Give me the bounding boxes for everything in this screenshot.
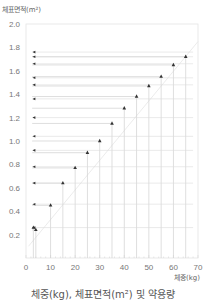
svg-text:60: 60: [169, 263, 178, 272]
svg-text:10: 10: [46, 263, 55, 272]
svg-text:0.6: 0.6: [9, 184, 21, 193]
y-axis-title: 체표면적(m²): [2, 5, 41, 14]
svg-text:1.6: 1.6: [9, 67, 21, 76]
svg-text:30: 30: [95, 263, 104, 272]
x-axis-title: 체중(kg): [174, 274, 200, 282]
svg-text:0: 0: [24, 263, 29, 272]
guide-lines: [32, 52, 193, 258]
chart-caption: 체중(kg), 체표면적(m²) 및 약용량: [0, 286, 206, 301]
svg-text:2.0: 2.0: [9, 20, 21, 29]
svg-text:1.2: 1.2: [9, 114, 21, 123]
svg-text:50: 50: [144, 263, 153, 272]
svg-text:40: 40: [120, 263, 129, 272]
svg-text:0.4: 0.4: [9, 207, 21, 216]
svg-text:1.4: 1.4: [9, 90, 21, 99]
svg-text:1.8: 1.8: [9, 43, 21, 52]
svg-text:0.2: 0.2: [9, 231, 21, 240]
x-tick-labels: 010203040506070: [24, 263, 203, 272]
y-tick-labels: 0.20.40.60.81.01.21.41.61.82.0: [9, 20, 21, 240]
bsa-chart: 체표면적(m²) 0.20.40.60.81.01.21.41.61.82.0 …: [0, 0, 206, 284]
svg-text:1.0: 1.0: [9, 137, 21, 146]
svg-text:70: 70: [194, 263, 203, 272]
svg-text:0.8: 0.8: [9, 160, 21, 169]
svg-text:20: 20: [71, 263, 80, 272]
